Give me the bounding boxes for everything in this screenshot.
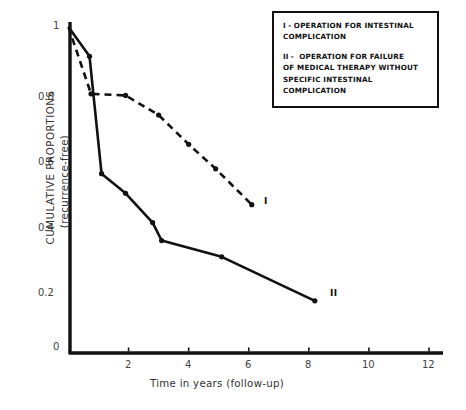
x-tick-label-12: 12 [422, 359, 435, 370]
chart-container: 1 0.8 0.6 0.4 0.2 0 2 4 6 8 10 12 CUMULA… [0, 0, 466, 410]
data-point [186, 142, 191, 147]
x-tick-label-6: 6 [245, 359, 251, 370]
curve-end-tag-II: II [330, 288, 338, 298]
y-axis-title-line2: (recurrence-free) [59, 57, 70, 307]
data-point [213, 166, 218, 171]
x-tick-label-10: 10 [362, 359, 375, 370]
x-tick-label-4: 4 [185, 359, 191, 370]
legend-text-II-line3: SPECIFIC INTESTINAL [283, 75, 373, 84]
data-point [249, 202, 254, 207]
legend-text-I-line1: OPERATION FOR INTESTINAL [294, 21, 414, 30]
data-point [219, 254, 224, 259]
legend-text-I-line2: COMPLICATION [283, 32, 346, 41]
legend-entry-II: II - OPERATION FOR FAILURE OF MEDICAL TH… [283, 51, 431, 97]
data-point [312, 298, 317, 303]
legend-text-II-line4: COMPLICATION [283, 86, 346, 95]
x-axis-title: Time in years (follow-up) [150, 378, 284, 389]
curve-end-tag-I: I [264, 196, 268, 206]
axis-tick-marks [129, 348, 429, 352]
y-tick-label-0: 0 [53, 341, 59, 352]
x-tick-label-2: 2 [125, 359, 131, 370]
y-tick-label-1: 1 [53, 20, 59, 31]
data-point [123, 93, 128, 98]
legend-entry-I: I - OPERATION FOR INTESTINAL COMPLICATIO… [283, 20, 431, 43]
x-tick-label-8: 8 [305, 359, 311, 370]
legend-text-II-line2: OF MEDICAL THERAPY WITHOUT [283, 63, 418, 72]
data-point [123, 191, 128, 196]
series-markers-I [88, 91, 254, 207]
legend-symbol-I: I - [283, 21, 291, 30]
legend-symbol-II: II - [283, 52, 294, 61]
legend-box: I - OPERATION FOR INTESTINAL COMPLICATIO… [272, 11, 439, 108]
data-point [87, 54, 92, 59]
data-point [150, 220, 155, 225]
legend-text-II-line1: OPERATION FOR FAILURE [299, 52, 404, 61]
y-axis-title-line1: CUMULATIVE PROPORTIONS [45, 43, 56, 293]
data-point [159, 238, 164, 243]
data-point [156, 112, 161, 117]
data-point [99, 171, 104, 176]
